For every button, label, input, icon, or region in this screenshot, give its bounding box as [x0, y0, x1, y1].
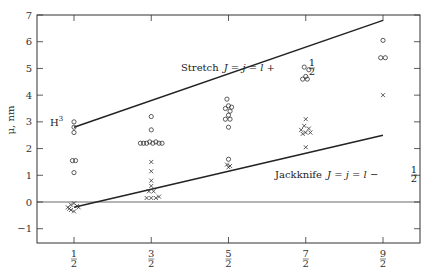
cross-point: [67, 207, 71, 211]
circle-point: [228, 109, 232, 113]
circle-point: [160, 141, 164, 145]
cross-point: [149, 169, 153, 173]
circle-point: [302, 65, 306, 69]
svg-text:2: 2: [71, 258, 77, 268]
jackknife-label: JackknifeJ = j = l −: [274, 169, 378, 180]
circle-point: [149, 114, 153, 118]
y-tick-label: 0: [26, 197, 32, 208]
cross-point: [304, 117, 308, 121]
cross-point: [302, 124, 306, 128]
circle-point: [223, 106, 227, 110]
y-axis-label: μ, nm: [5, 105, 16, 134]
y-tick-label: 5: [26, 63, 32, 74]
x-tick-label: 32: [148, 248, 154, 268]
circle-point: [72, 171, 76, 175]
cross-point: [299, 128, 303, 132]
x-tick-label: 52: [225, 248, 231, 268]
cross-point: [152, 189, 156, 193]
circle-point: [226, 113, 230, 117]
svg-text:2: 2: [303, 258, 309, 268]
x-tick-label: 92: [380, 248, 386, 268]
svg-text:2: 2: [148, 258, 154, 268]
circle-point: [381, 38, 385, 42]
circle-point: [225, 97, 229, 101]
circle-point: [73, 158, 77, 162]
cross-point: [304, 145, 308, 149]
stretch-half-fraction: 1 2: [309, 57, 315, 77]
plot-frame: −1012345671232527292: [17, 10, 420, 268]
magnetic-moment-chart: −1012345671232527292 μ, nm H3 StretchJ =…: [0, 0, 432, 268]
svg-text:2: 2: [309, 66, 315, 77]
y-tick-label: 7: [26, 10, 32, 21]
h3-label: H3: [50, 115, 63, 128]
cross-point: [149, 196, 153, 200]
y-tick-label: 4: [26, 90, 32, 101]
circle-point: [383, 56, 387, 60]
y-tick-label: 2: [26, 143, 32, 154]
stretch-label: StretchJ = j = l +: [181, 62, 275, 73]
cross-point: [149, 179, 153, 183]
x-tick-label: 72: [303, 248, 309, 268]
svg-text:2: 2: [225, 258, 231, 268]
cross-point: [381, 93, 385, 97]
circle-point: [228, 117, 232, 121]
svg-text:2: 2: [380, 258, 386, 268]
y-tick-label: 3: [26, 116, 32, 127]
circle-point: [149, 128, 153, 132]
circle-point: [72, 120, 76, 124]
jackknife-half-fraction: 1 2: [411, 164, 417, 184]
svg-text:2: 2: [411, 173, 417, 184]
cross-point: [308, 131, 312, 135]
stretch-line: [74, 20, 383, 127]
y-tick-label: 6: [26, 36, 32, 47]
cross-point: [307, 127, 311, 131]
y-tick-label: 1: [26, 170, 32, 181]
y-tick-label: −1: [17, 223, 32, 234]
cross-point: [149, 184, 153, 188]
circle-point: [72, 130, 76, 134]
x-tick-label: 12: [71, 248, 77, 268]
circle-point: [226, 125, 230, 129]
circle-point: [226, 157, 230, 161]
circle-point: [301, 77, 305, 81]
cross-point: [149, 160, 153, 164]
circle-point: [379, 56, 383, 60]
cross-point: [145, 196, 149, 200]
annotations: μ, nm H3 StretchJ = j = l + 1 2 Jackknif…: [5, 57, 417, 184]
circle-point: [223, 117, 227, 121]
